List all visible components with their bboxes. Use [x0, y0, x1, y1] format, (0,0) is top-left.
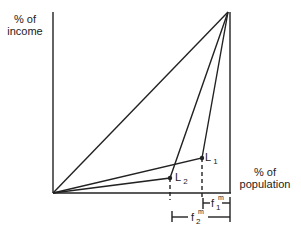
x-axis-label-line2: population: [232, 178, 298, 190]
label-f1m: fm1: [211, 197, 223, 209]
label-l1: L1: [205, 151, 218, 163]
x-axis-label-line1: % of: [232, 166, 298, 178]
label-l2: L2: [175, 171, 188, 183]
label-f2m: fm2: [191, 211, 207, 223]
point-l2: [168, 176, 172, 180]
y-axis-label-line1: % of: [2, 13, 48, 25]
x-axis-label: % of population: [232, 166, 298, 190]
point-l1: [200, 156, 204, 160]
y-axis-label-line2: income: [2, 25, 48, 37]
y-axis-label: % of income: [2, 13, 48, 37]
